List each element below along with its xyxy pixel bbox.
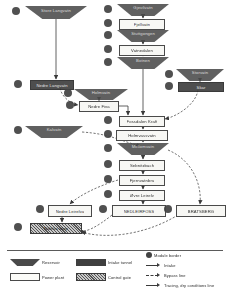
legend-item-tracingline: Tracing, dry conditions line: [146, 282, 214, 288]
legend-divider: [7, 250, 223, 251]
module-border-icon-c06: [104, 58, 112, 66]
reservoir-icon: [10, 259, 40, 266]
plant-node-n11[interactable]: Nedre Fiva: [79, 101, 119, 112]
node-label: Nedre Langvatn: [36, 83, 67, 88]
node-label: Nedre Leirelva: [56, 209, 85, 214]
node-label: Nedre Fiva: [88, 104, 109, 109]
node-label: Storvatn: [176, 70, 224, 75]
edge-n14-n21: [168, 150, 200, 204]
edge-n20-n22: [82, 215, 112, 231]
legend-label-moduleborder: Module border: [154, 253, 181, 258]
plant-node-n19[interactable]: Nedre Leirelva: [48, 205, 92, 217]
plant-node-n17[interactable]: Øvre Leirelv: [119, 190, 165, 201]
plant-node-n20[interactable]: NEDLEIRFOSS: [112, 205, 166, 217]
diagram-canvas: Store LangvatnGjevilvatnFjellvatnStuttgo…: [0, 0, 230, 290]
node-label: Fossdalen Kraft: [127, 119, 158, 124]
module-border-icon-c15: [104, 160, 112, 168]
module-border-icon-c13: [104, 130, 112, 138]
connection-lines: [0, 0, 230, 290]
legend-item-bypassline: Bypass line: [146, 272, 186, 278]
legend-item-powerplant: Power plant: [10, 273, 64, 281]
intake-arrow-icon: [146, 262, 162, 268]
module-border-icon-c01: [12, 7, 20, 15]
node-label: Botnen: [117, 58, 169, 63]
node-label: Gjevilvatn: [117, 5, 169, 10]
node-label: Stuttgongen: [117, 31, 169, 36]
legend-label-powerplant: Power plant: [42, 275, 64, 280]
module-border-icon-c19: [36, 205, 44, 213]
plant-node-n15[interactable]: Sebnitzbach: [119, 160, 165, 171]
plant-node-n13[interactable]: Holmvassvatn: [116, 130, 168, 141]
node-label: Holmvassvatn: [128, 133, 156, 138]
node-label: Fjellvatn: [134, 22, 151, 27]
module-border-icon-c21: [164, 205, 172, 213]
module-border-icon-c18: [14, 126, 22, 134]
edge-n09-n12: [165, 90, 198, 119]
node-label: Nidelva utløp: [44, 226, 67, 231]
legend-item-moduleborder: Module border: [146, 252, 181, 258]
node-label: Øvre Leirelv: [130, 193, 154, 198]
legend-label-reservoir: Reservoir: [42, 260, 60, 265]
node-label: Kalvatn: [25, 127, 83, 132]
legend-item-intake: Intake tunnel: [76, 259, 132, 266]
plant-node-n03[interactable]: Fjellvatn: [119, 19, 165, 30]
legend-label-controlgate: Control gate: [108, 275, 131, 280]
module-border-icon-c11: [165, 82, 173, 90]
module-border-icon-c17: [104, 190, 112, 198]
legend-label-intakeline: Intake: [164, 263, 176, 268]
node-label: Skar: [196, 85, 205, 90]
legend-label-bypassline: Bypass line: [164, 273, 186, 278]
node-label: Mellomvatn: [117, 144, 169, 149]
node-label: Sebnitzbach: [130, 163, 154, 168]
module-border-icon-c22: [14, 223, 22, 231]
node-label: Vatnedalen: [131, 48, 153, 53]
legend-item-controlgate: Control gate: [76, 273, 131, 281]
module-border-icon-c10: [165, 70, 173, 78]
module-border-icon-c14: [104, 144, 112, 152]
plant-node-n12[interactable]: Fossdalen Kraft: [119, 116, 165, 127]
powerplant-icon: [10, 273, 40, 281]
gate-node-n22[interactable]: Nidelva utløp: [30, 223, 82, 234]
module-border-icon-c09: [66, 101, 74, 109]
legend-item-intakeline: Intake: [146, 262, 176, 268]
legend-label-tracingline: Tracing, dry conditions line: [164, 283, 214, 288]
legend: Reservoir Power plant Intake tunnel Cont…: [0, 248, 230, 290]
bypass-arrow-icon: [146, 272, 162, 278]
node-label: NEDLEIRFOSS: [124, 209, 155, 214]
module-border-icon-c07: [14, 80, 22, 88]
module-border-icon-c03: [104, 19, 112, 27]
plant-node-n05[interactable]: Vatnedalen: [119, 45, 165, 56]
node-label: Holmvatn: [74, 90, 128, 95]
node-label: BRATSBERG: [188, 209, 214, 214]
module-border-icon-c12: [104, 116, 112, 124]
plant-node-n21[interactable]: BRATSBERG: [176, 205, 226, 217]
module-border-icon-c16: [104, 175, 112, 183]
edge-n21-n22: [82, 215, 178, 235]
tracing-arrow-icon: [146, 282, 162, 288]
module-border-icon-c02: [104, 5, 112, 13]
module-border-icon: [146, 252, 152, 258]
node-label: Store Langvatn: [25, 8, 87, 13]
control-gate-icon: [76, 273, 106, 281]
module-border-icon-c04: [104, 31, 112, 39]
legend-item-reservoir: Reservoir: [10, 259, 60, 266]
intake-icon: [76, 259, 106, 266]
module-border-icon-c08: [64, 89, 72, 97]
plant-node-n16[interactable]: Fjernvatnbru: [119, 175, 165, 186]
module-border-icon-c20: [99, 205, 107, 213]
legend-label-intake: Intake tunnel: [108, 260, 132, 265]
module-border-icon-c05: [104, 45, 112, 53]
node-label: Fjernvatnbru: [130, 178, 155, 183]
intake-node-n09[interactable]: Skar: [178, 82, 224, 92]
